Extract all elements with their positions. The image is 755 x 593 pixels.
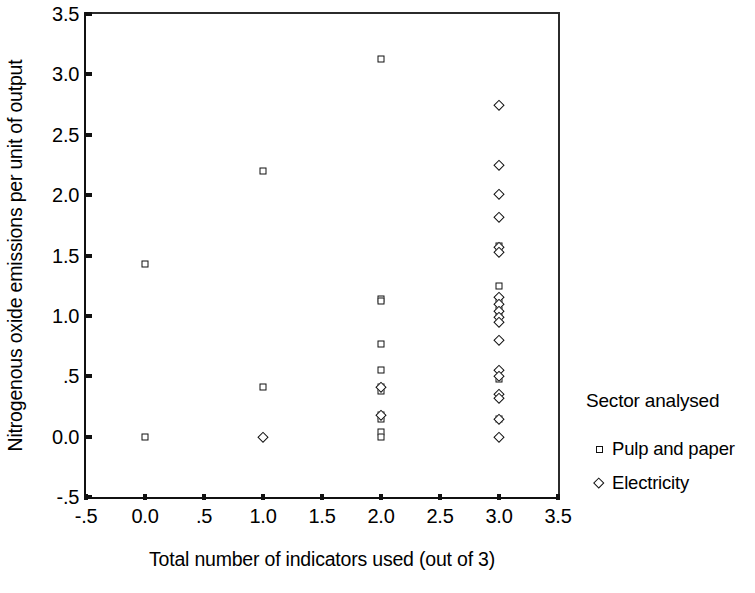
- x-tick-mark: [84, 494, 88, 500]
- data-point-diamond: [494, 335, 505, 346]
- y-axis-title: Nitrogenous oxide emissions per unit of …: [4, 12, 34, 499]
- y-tick-mark: [85, 435, 92, 439]
- data-point-square: [260, 384, 267, 391]
- y-tick-label: 2.0: [52, 185, 79, 205]
- x-tick-mark: [261, 494, 265, 500]
- x-tick-mark: [556, 494, 560, 500]
- square-marker-icon: [586, 446, 612, 453]
- diamond-marker-icon: [586, 479, 612, 487]
- x-tick-label: 3.5: [545, 506, 572, 526]
- y-tick-mark: [85, 133, 92, 137]
- y-tick-mark: [85, 12, 92, 16]
- y-tick-label: 3.5: [52, 4, 79, 24]
- x-tick-label: 1.5: [309, 506, 336, 526]
- data-point-square: [378, 433, 385, 440]
- y-tick-label: 1.0: [52, 306, 79, 326]
- y-tick-mark: [85, 193, 92, 197]
- legend-entry-label: Pulp and paper: [612, 438, 735, 460]
- data-points-layer: [86, 14, 558, 497]
- data-point-square: [142, 260, 149, 267]
- x-tick-label: 3.0: [486, 506, 513, 526]
- x-axis-title: Total number of indicators used (out of …: [84, 548, 560, 571]
- data-point-square: [378, 55, 385, 62]
- y-tick-label: -.5: [57, 487, 79, 507]
- data-point-square: [260, 167, 267, 174]
- x-tick-label: 2.0: [368, 506, 395, 526]
- data-point-diamond: [494, 431, 505, 442]
- legend-entry-label: Electricity: [612, 472, 689, 494]
- legend-entry-1[interactable]: Electricity: [586, 466, 754, 500]
- x-tick-label: 0.0: [132, 506, 159, 526]
- y-tick-label: 1.5: [52, 246, 79, 266]
- data-point-diamond: [494, 160, 505, 171]
- data-point-diamond: [494, 212, 505, 223]
- x-tick-mark: [320, 494, 324, 500]
- y-tick-mark: [85, 314, 92, 318]
- x-tick-mark: [379, 494, 383, 500]
- data-point-square: [142, 433, 149, 440]
- legend-entry-0[interactable]: Pulp and paper: [586, 432, 754, 466]
- x-tick-label: .5: [196, 506, 212, 526]
- x-tick-mark: [438, 494, 442, 500]
- data-point-diamond: [494, 189, 505, 200]
- data-point-square: [378, 298, 385, 305]
- x-tick-label: 1.0: [250, 506, 277, 526]
- data-point-square: [378, 340, 385, 347]
- plot-area: -.50.0.51.01.52.02.53.03.5 -.50.0.51.01.…: [84, 12, 560, 499]
- legend-entries: Pulp and paperElectricity: [586, 432, 754, 500]
- x-tick-label: -.5: [75, 506, 97, 526]
- data-point-square: [378, 367, 385, 374]
- y-tick-mark: [85, 374, 92, 378]
- y-tick-mark: [85, 254, 92, 258]
- y-tick-label: 2.5: [52, 125, 79, 145]
- y-tick-label: .5: [63, 366, 79, 386]
- scatter-plot-figure: Nitrogenous oxide emissions per unit of …: [0, 0, 755, 593]
- x-tick-mark: [202, 494, 206, 500]
- y-tick-label: 3.0: [52, 64, 79, 84]
- legend-title: Sector analysed: [586, 390, 754, 412]
- x-tick-mark: [497, 494, 501, 500]
- y-tick-label: 0.0: [52, 427, 79, 447]
- x-tick-label: 2.5: [427, 506, 454, 526]
- legend: Sector analysed Pulp and paperElectricit…: [586, 390, 754, 500]
- data-point-square: [496, 282, 503, 289]
- x-tick-mark: [143, 494, 147, 500]
- data-point-diamond: [258, 431, 269, 442]
- y-tick-mark: [85, 72, 92, 76]
- data-point-diamond: [494, 99, 505, 110]
